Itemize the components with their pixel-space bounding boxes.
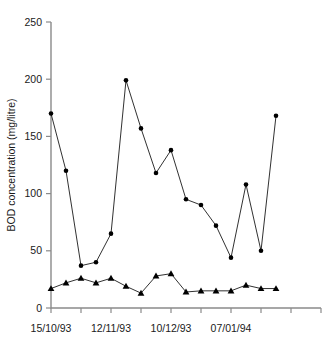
data-point-circle [259,249,264,254]
y-axis-tick-labels: 050100150200250 [24,16,42,314]
data-point-circle [109,231,114,236]
data-point-circle [64,168,69,173]
data-point-circle [229,255,234,260]
data-point-circle [199,203,204,208]
series-path [51,274,276,293]
data-point-triangle [78,275,85,281]
y-tick-label: 100 [24,187,42,199]
data-point-triangle [243,282,250,288]
x-tick-label: 10/12/93 [151,322,192,334]
data-point-circle [184,197,189,202]
data-point-triangle [168,270,175,276]
x-tick-label: 15/10/93 [31,322,72,334]
data-point-circle [214,223,219,228]
x-tick-label: 07/01/94 [211,322,252,334]
y-tick-label: 0 [36,302,42,314]
data-point-triangle [108,275,115,281]
chart-container: BOD concentration (mg/litre) 05010015020… [0,0,326,345]
y-tick-label: 200 [24,73,42,85]
y-axis-title: BOD concentration (mg/litre) [5,98,17,231]
axis-frame [51,22,321,308]
data-point-circle [169,148,174,153]
x-tick-label: 12/11/93 [91,322,131,334]
y-tick-label: 150 [24,130,42,142]
series-lower-series [48,270,280,295]
data-point-circle [124,78,129,83]
data-point-triangle [48,285,55,291]
x-axis-tick-labels: 15/10/9312/11/9310/12/9307/01/94 [31,322,252,334]
axis-lines [51,22,321,308]
bod-concentration-line-chart: BOD concentration (mg/litre) 05010015020… [0,0,326,345]
series-upper-series [49,78,279,268]
data-point-circle [139,126,144,131]
data-point-circle [49,111,54,116]
data-point-circle [154,171,159,176]
data-point-circle [79,263,84,268]
y-axis-title-group: BOD concentration (mg/litre) [5,98,17,231]
data-point-circle [244,182,249,187]
y-tick-label: 250 [24,16,42,28]
x-tick-marks [51,308,321,313]
data-point-circle [274,114,279,119]
data-point-circle [94,260,99,265]
y-tick-label: 50 [30,244,42,256]
data-series-layer [48,78,280,296]
series-path [51,80,276,265]
y-tick-marks [46,22,51,308]
data-point-triangle [123,283,130,289]
